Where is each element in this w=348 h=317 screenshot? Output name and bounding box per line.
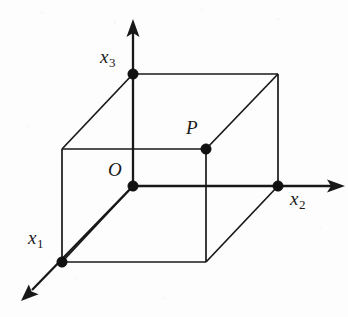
point-label-p-text: P <box>186 117 198 138</box>
cube-edge-depth-bottom-right <box>206 186 278 262</box>
point-label-p: P <box>186 118 198 137</box>
x1-intercept-dot <box>57 257 67 267</box>
coordinate-axes <box>21 19 345 301</box>
axis-label-x1-base: x <box>28 227 36 248</box>
point-p-dot <box>201 144 211 154</box>
figure-canvas: x3 x2 x1 O P <box>0 0 348 317</box>
axis-label-x1-subscript: 1 <box>37 236 44 251</box>
axis-label-x3: x3 <box>100 47 115 69</box>
axis-label-x3-subscript: 3 <box>109 55 116 70</box>
cube-edge-depth-top-left <box>62 74 133 149</box>
cube-diagram-svg <box>0 0 348 317</box>
axis-label-x2-base: x <box>290 188 298 209</box>
point-label-origin-text: O <box>108 159 122 180</box>
point-label-origin: O <box>108 160 122 179</box>
axis-label-x1: x1 <box>28 228 43 250</box>
origin-dot <box>128 181 138 191</box>
marked-points <box>57 69 283 267</box>
x1-axis-line <box>32 183 136 290</box>
axis-label-x2: x2 <box>290 189 305 211</box>
cube-edge-depth-top-right <box>206 74 278 149</box>
cube-wireframe <box>62 74 278 262</box>
x3-intercept-dot <box>128 69 138 79</box>
axis-label-x2-subscript: 2 <box>299 197 306 212</box>
axis-label-x3-base: x <box>100 46 108 67</box>
x2-intercept-dot <box>273 181 283 191</box>
